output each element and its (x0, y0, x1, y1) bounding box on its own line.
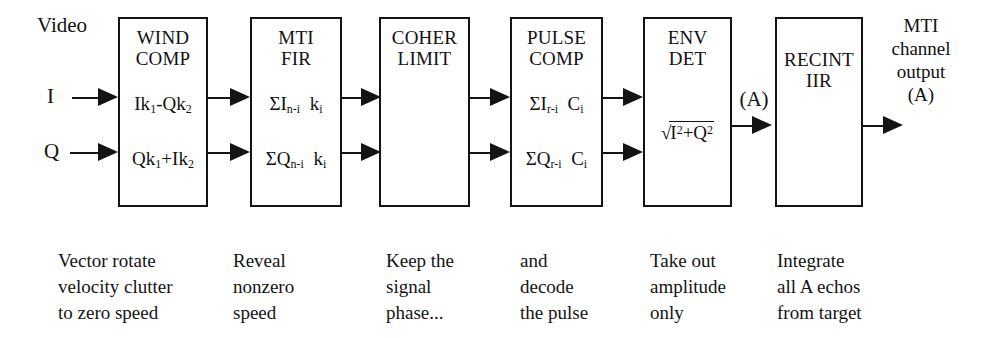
input-q-label: Q (44, 140, 59, 162)
block-wind-comp[interactable]: WIND COMP Ik1-Qk2 Qk1+Ik2 (118, 17, 208, 207)
block-env-det-title: ENV DET (645, 27, 730, 69)
block-wind-comp-formula-i: Ik1-Qk2 (120, 94, 206, 119)
block-wind-comp-title: WIND COMP (120, 27, 206, 69)
caption-coher-limit: Keep the signal phase... (386, 248, 506, 326)
caption-pulse-comp: and decode the pulse (520, 248, 640, 326)
arrow-pulse-env-i (623, 88, 643, 106)
arrow-env-recint (752, 116, 772, 134)
block-wind-comp-formula-q: Qk1+Ik2 (120, 149, 206, 174)
block-mti-fir-title: MTI FIR (252, 27, 340, 69)
input-i-label: I (47, 85, 54, 107)
arrow-input-q (98, 143, 118, 161)
block-mti-fir[interactable]: MTI FIR ΣIn-i ki ΣQn-i ki (250, 17, 342, 207)
block-recint-iir-title: RECINT IIR (777, 49, 861, 91)
block-pulse-comp-formula-q: ΣQr-i Ci (512, 149, 601, 174)
block-env-det[interactable]: ENV DET √I2+Q2 (643, 17, 732, 207)
caption-env-det: Take out amplitude only (650, 248, 775, 326)
video-label: Video (37, 14, 87, 36)
arrow-windcomp-mtifir-i (230, 88, 250, 106)
arrow-mtifir-coher-i (361, 88, 381, 106)
arrow-coher-pulse-i (490, 88, 510, 106)
output-label: MTI channel output (A) (866, 14, 976, 106)
arrow-input-i (98, 88, 118, 106)
block-pulse-comp[interactable]: PULSE COMP ΣIr-i Ci ΣQr-i Ci (510, 17, 603, 207)
block-coher-limit-title: COHER LIMIT (381, 27, 468, 69)
caption-mti-fir: Reveal nonzero speed (233, 248, 353, 326)
block-mti-fir-formula-q: ΣQn-i ki (252, 149, 340, 174)
arrow-pulse-env-q (623, 143, 643, 161)
caption-wind-comp: Vector rotate velocity clutter to zero s… (58, 248, 208, 326)
block-pulse-comp-title: PULSE COMP (512, 27, 601, 69)
arrow-windcomp-mtifir-q (230, 143, 250, 161)
arrow-mtifir-coher-q (361, 143, 381, 161)
block-coher-limit[interactable]: COHER LIMIT (379, 17, 470, 207)
block-env-det-radical: √I2+Q2 (645, 122, 730, 144)
arrow-coher-pulse-q (490, 143, 510, 161)
block-mti-fir-formula-i: ΣIn-i ki (252, 94, 340, 119)
block-pulse-comp-formula-i: ΣIr-i Ci (512, 94, 601, 119)
amplitude-tap-label: (A) (730, 88, 778, 110)
mti-block-diagram: Video I Q WIND COMP Ik1-Qk2 Qk1+Ik2 MTI … (0, 0, 991, 338)
caption-recint-iir: Integrate all A echos from target (777, 248, 917, 326)
arrow-output (883, 116, 903, 134)
block-recint-iir[interactable]: RECINT IIR (775, 17, 863, 207)
